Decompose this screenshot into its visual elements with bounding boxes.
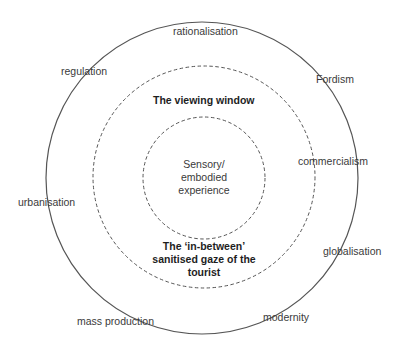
label-fordism: Fordism bbox=[316, 73, 354, 85]
gaze-line-3: tourist bbox=[124, 266, 284, 279]
label-modernity: modernity bbox=[263, 311, 309, 323]
core-line-3: experience bbox=[154, 184, 254, 197]
label-regulation: regulation bbox=[61, 65, 107, 77]
label-mass-production: mass production bbox=[77, 315, 154, 327]
label-commercialism: commercialism bbox=[298, 155, 368, 167]
label-sensory-experience: Sensory/ embodied experience bbox=[154, 158, 254, 197]
label-viewing-window: The viewing window bbox=[153, 94, 255, 107]
label-rationalisation: rationalisation bbox=[173, 25, 238, 37]
label-urbanisation: urbanisation bbox=[18, 196, 75, 208]
core-line-2: embodied bbox=[154, 171, 254, 184]
gaze-line-1: The ‘in-between’ bbox=[124, 240, 284, 253]
gaze-line-2: sanitised gaze of the bbox=[124, 253, 284, 266]
label-globalisation: globalisation bbox=[323, 245, 381, 257]
core-line-1: Sensory/ bbox=[154, 158, 254, 171]
label-in-between-gaze: The ‘in-between’ sanitised gaze of the t… bbox=[124, 240, 284, 279]
